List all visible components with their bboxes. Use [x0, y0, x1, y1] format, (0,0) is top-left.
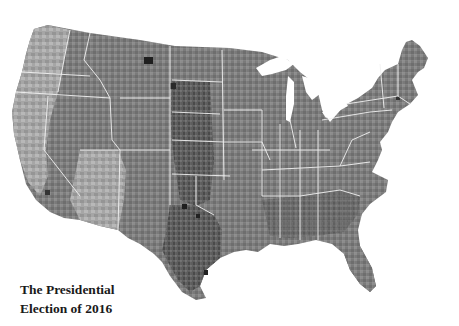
dark-county — [182, 204, 187, 209]
dark-county — [204, 270, 208, 275]
dark-county — [170, 83, 176, 89]
title-line-1: The Presidential — [20, 280, 115, 299]
florida — [344, 230, 376, 292]
dark-county — [196, 214, 200, 218]
title-line-2: Election of 2016 — [20, 299, 115, 318]
texas-region — [162, 205, 222, 292]
us-county-choropleth-map — [0, 0, 459, 326]
dark-county — [144, 57, 153, 64]
map-title: The Presidential Election of 2016 — [20, 280, 115, 318]
dark-county — [45, 190, 50, 195]
